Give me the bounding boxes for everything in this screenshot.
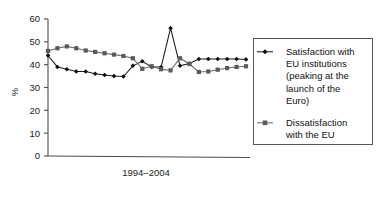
square-marker: [197, 70, 201, 74]
y-tick-label: 20: [29, 105, 40, 116]
diamond-marker: [244, 57, 249, 62]
data-series-layer: [46, 26, 249, 79]
y-tick-label: 0: [35, 150, 40, 161]
square-marker: [159, 67, 163, 71]
legend-label: Euro): [286, 95, 309, 106]
square-marker: [55, 46, 59, 50]
diamond-marker: [140, 59, 145, 64]
legend: Satisfaction withEU institutions(peaking…: [254, 39, 373, 145]
y-axis-tick-labels: 0102030405060: [29, 13, 40, 161]
x-axis: 1994–2004: [48, 156, 250, 178]
square-marker: [121, 54, 125, 58]
legend-label: EU institutions: [286, 58, 347, 69]
square-marker: [178, 56, 182, 60]
diamond-marker: [206, 57, 211, 62]
square-marker: [74, 46, 78, 50]
x-axis-label: 1994–2004: [122, 167, 170, 178]
square-marker: [206, 69, 210, 73]
diamond-marker: [197, 57, 202, 62]
y-tick-label: 10: [29, 128, 40, 139]
legend-label: (peaking at the: [286, 70, 349, 81]
line-chart: 0102030405060 % 1994–2004 Satisfaction w…: [0, 0, 379, 209]
diamond-marker: [102, 73, 107, 78]
y-tick-label: 40: [29, 59, 40, 70]
y-tick-label: 50: [29, 36, 40, 47]
square-marker: [187, 62, 191, 66]
square-marker: [93, 50, 97, 54]
square-marker: [225, 66, 229, 70]
diamond-marker: [234, 57, 239, 62]
legend-label: Satisfaction with: [286, 46, 355, 57]
square-marker: [112, 53, 116, 57]
legend-label: with the EU: [285, 129, 335, 140]
diamond-marker: [112, 74, 117, 79]
diamond-marker: [65, 67, 70, 72]
square-marker: [234, 65, 238, 69]
square-marker: [102, 51, 106, 55]
square-marker: [263, 121, 268, 126]
diamond-marker: [178, 64, 183, 69]
square-marker: [150, 64, 154, 68]
diamond-marker: [168, 26, 173, 31]
y-tick-label: 30: [29, 82, 40, 93]
square-marker: [65, 44, 69, 48]
y-axis-title: %: [9, 87, 20, 96]
legend-label: Dissatisfaction: [286, 117, 347, 128]
diamond-marker: [93, 72, 98, 77]
square-marker: [168, 68, 172, 72]
y-axis: 0102030405060 %: [9, 13, 48, 161]
chart-figure: 0102030405060 % 1994–2004 Satisfaction w…: [0, 0, 379, 209]
legend-label: launch of the: [286, 83, 340, 94]
square-marker: [46, 49, 50, 53]
square-marker: [131, 56, 135, 60]
diamond-marker: [83, 69, 88, 74]
square-marker: [244, 64, 248, 68]
y-tick-label: 60: [29, 13, 40, 24]
diamond-marker: [225, 57, 230, 62]
diamond-marker: [215, 57, 220, 62]
x-axis-line: [48, 156, 250, 158]
square-marker: [84, 48, 88, 52]
square-marker: [140, 67, 144, 71]
diamond-marker: [74, 69, 79, 74]
square-marker: [216, 68, 220, 72]
y-axis-ticks: [44, 19, 48, 156]
